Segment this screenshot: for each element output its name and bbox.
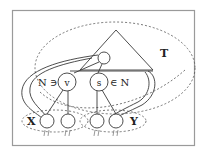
- leaf-y2: [109, 114, 123, 128]
- leaf-x1: [40, 114, 54, 128]
- right-relation-label: ∈ N: [110, 77, 130, 88]
- tick: [117, 130, 118, 136]
- tick: [69, 130, 70, 136]
- left-relation-label: N ∋: [38, 77, 57, 88]
- node-v-label: v: [63, 78, 70, 88]
- diagram-canvas: v s N ∋ ∈ N T X Y: [0, 0, 205, 155]
- tree-triangle: [80, 30, 153, 70]
- tick: [48, 130, 49, 136]
- root-node: [98, 52, 110, 64]
- leaf-x2: [61, 114, 75, 128]
- tick: [98, 130, 99, 136]
- tree-region-ellipse: [35, 22, 195, 114]
- tick: [65, 130, 66, 136]
- set-y-label: Y: [129, 115, 138, 128]
- leaf-y1: [90, 114, 104, 128]
- tree-label: T: [160, 47, 169, 60]
- set-x-label: X: [27, 115, 36, 128]
- tick: [44, 130, 45, 136]
- edge-root-s: [98, 64, 102, 73]
- tick: [113, 130, 114, 136]
- tick: [94, 130, 95, 136]
- node-s-label: s: [97, 78, 102, 88]
- leaf-ticks: [44, 130, 118, 136]
